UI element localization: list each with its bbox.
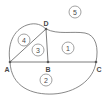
region-badge-4: 4: [18, 34, 30, 46]
vertex-dot-d: [45, 28, 48, 31]
vertex-label-d: D: [43, 20, 48, 27]
vertex-label-b: B: [45, 66, 50, 73]
region-badge-2: 2: [40, 74, 52, 86]
region-badge-4-label: 4: [22, 37, 26, 44]
geometry-figure: A B C D 1 2 3 4 5: [0, 0, 104, 99]
vertex-dot-b: [47, 61, 50, 64]
arc-lower-A-to-C: [10, 62, 96, 94]
vertex-dot-c: [95, 61, 98, 64]
figure-canvas: A B C D 1 2 3 4 5: [0, 0, 104, 99]
region-badge-5-label: 5: [73, 9, 77, 16]
vertex-label-c: C: [96, 66, 101, 73]
region-badge-2-label: 2: [44, 77, 48, 84]
vertex-label-a: A: [4, 66, 9, 73]
region-badge-3-label: 3: [36, 47, 40, 54]
edge-D-to-B: [46, 29, 48, 62]
region-badge-1: 1: [62, 42, 74, 54]
region-badge-1-label: 1: [66, 45, 70, 52]
region-badge-5: 5: [69, 6, 81, 18]
region-badge-3: 3: [32, 44, 44, 56]
vertex-dot-a: [9, 61, 12, 64]
